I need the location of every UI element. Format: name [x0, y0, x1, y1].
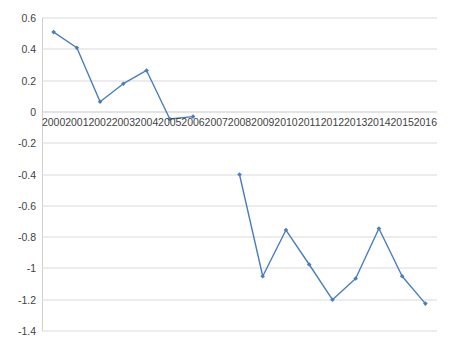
- data-point-marker: [237, 172, 242, 177]
- y-tick-label: -1.2: [2, 294, 36, 306]
- plot-area: [42, 18, 437, 331]
- data-point-marker: [377, 226, 382, 231]
- y-tick-label: -0.4: [2, 169, 36, 181]
- data-point-marker: [191, 114, 196, 119]
- data-point-marker: [167, 117, 172, 122]
- series-lines: [42, 18, 437, 331]
- series-line-segment: [54, 32, 193, 119]
- y-tick-label: -1: [2, 262, 36, 274]
- line-chart: 0.60.40.20-0.2-0.4-0.6-0.8-1-1.2-1.4 200…: [0, 0, 463, 358]
- y-tick-label: -1.4: [2, 325, 36, 337]
- y-tick-label: -0.2: [2, 137, 36, 149]
- y-tick-label: -0.8: [2, 231, 36, 243]
- y-tick-label: 0.2: [2, 75, 36, 87]
- data-point-marker: [260, 274, 265, 279]
- y-tick-label: 0.6: [2, 12, 36, 24]
- y-tick-label: -0.6: [2, 200, 36, 212]
- y-tick-label: 0.4: [2, 43, 36, 55]
- y-tick-label: 0: [2, 106, 36, 118]
- series-line-segment: [240, 175, 426, 304]
